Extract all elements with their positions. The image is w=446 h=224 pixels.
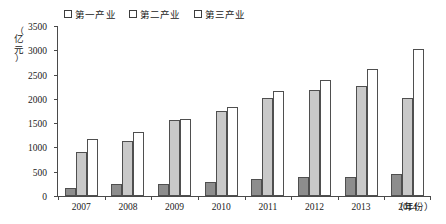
bar-group: 2014 — [384, 26, 431, 196]
y-axis-title-paren-close: ） — [11, 55, 27, 61]
legend-label: 第二产业 — [140, 7, 181, 21]
bar-2013-series-0 — [345, 177, 356, 196]
x-axis-tick-label: 2009 — [165, 202, 184, 212]
legend-item-series-2: 第三产业 — [194, 7, 246, 21]
bar-2009-series-2 — [180, 119, 191, 196]
bar-2010-series-0 — [205, 182, 216, 196]
bar-2013-series-2 — [367, 69, 378, 196]
bar-2007-series-1 — [76, 152, 87, 196]
bar-2007-series-2 — [87, 139, 98, 196]
bar-group: 2013 — [338, 26, 385, 196]
legend-swatch-icon — [64, 10, 72, 18]
bar-group: 2010 — [198, 26, 245, 196]
x-axis-tick-label: 2011 — [258, 202, 277, 212]
bar-group: 2011 — [245, 26, 292, 196]
x-axis-title: （年份） — [394, 199, 434, 213]
x-axis-tick — [105, 196, 106, 200]
y-axis-tick-label: 2500 — [28, 71, 47, 81]
bar-2014-series-1 — [402, 98, 413, 196]
y-axis-tick-label: 500 — [33, 168, 47, 178]
y-axis-tick-label: 0 — [42, 192, 47, 202]
x-axis-tick-label: 2010 — [212, 202, 231, 212]
bar-2012-series-1 — [309, 90, 320, 196]
bar-2014-series-2 — [413, 49, 424, 196]
bar-2008-series-2 — [133, 132, 144, 196]
x-axis-tick-label: 2013 — [352, 202, 371, 212]
y-axis-tick-label: 2000 — [28, 95, 47, 105]
bar-group: 2007 — [58, 26, 105, 196]
bar-2011-series-2 — [273, 91, 284, 196]
bar-groups: 20072008200920102011201220132014 — [58, 26, 431, 196]
x-axis-tick-label: 2007 — [72, 202, 91, 212]
x-axis-tick — [291, 196, 292, 200]
x-axis-tick — [338, 196, 339, 200]
x-axis-tick — [58, 196, 59, 200]
x-axis-tick-label: 2008 — [118, 202, 137, 212]
bar-2011-series-1 — [262, 98, 273, 196]
legend-item-series-0: 第一产业 — [64, 7, 116, 21]
x-axis-tick-label: 2012 — [305, 202, 324, 212]
bar-2008-series-0 — [111, 184, 122, 196]
x-axis-tick — [198, 196, 199, 200]
legend-swatch-icon — [129, 10, 137, 18]
bar-2012-series-0 — [298, 177, 309, 196]
legend-label: 第三产业 — [205, 7, 246, 21]
plot-area: 0500100015002000250030003500 20072008200… — [57, 26, 431, 197]
bar-2009-series-0 — [158, 184, 169, 196]
y-axis-tick-label: 3000 — [28, 46, 47, 56]
bar-2007-series-0 — [65, 188, 76, 196]
y-axis-tick-label: 1500 — [28, 119, 47, 129]
bar-chart: 第一产业 第二产业 第三产业 （ 亿 元 ） 05001000150020002… — [0, 0, 446, 224]
bar-2011-series-0 — [251, 179, 262, 196]
bar-group: 2009 — [151, 26, 198, 196]
x-axis-tick — [384, 196, 385, 200]
y-axis-title-char-1: 亿 — [11, 34, 27, 45]
legend-item-series-1: 第二产业 — [129, 7, 181, 21]
y-axis-tick-label: 3500 — [28, 22, 47, 32]
bar-2013-series-1 — [356, 86, 367, 196]
legend-label: 第一产业 — [75, 7, 116, 21]
bar-2012-series-2 — [320, 80, 331, 196]
bar-group: 2008 — [105, 26, 152, 196]
y-axis-tick-label: 1000 — [28, 143, 47, 153]
x-axis-tick — [151, 196, 152, 200]
bar-group: 2012 — [291, 26, 338, 196]
bar-2009-series-1 — [169, 120, 180, 196]
bar-2010-series-1 — [216, 111, 227, 196]
bar-2010-series-2 — [227, 107, 238, 196]
bar-2014-series-0 — [391, 174, 402, 196]
y-axis-title: （ 亿 元 ） — [11, 28, 27, 61]
bar-2008-series-1 — [122, 141, 133, 196]
chart-legend: 第一产业 第二产业 第三产业 — [64, 7, 245, 21]
x-axis-tick — [245, 196, 246, 200]
legend-swatch-icon — [194, 10, 202, 18]
